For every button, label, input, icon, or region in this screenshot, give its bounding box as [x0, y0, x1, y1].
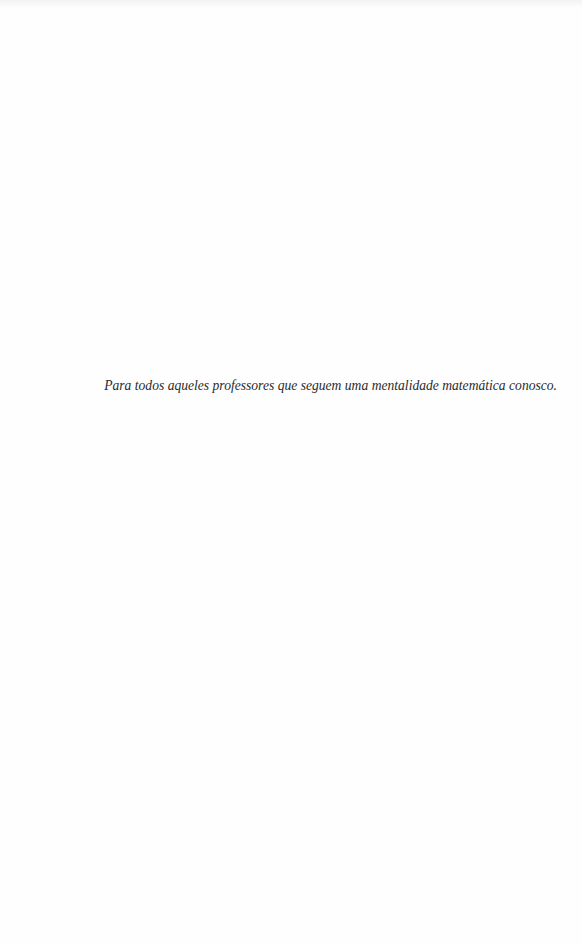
book-page: Para todos aqueles professores que segue… [0, 0, 582, 944]
dedication-text: Para todos aqueles professores que segue… [104, 378, 557, 394]
scan-edge [0, 0, 582, 8]
